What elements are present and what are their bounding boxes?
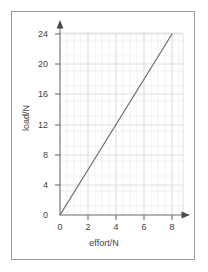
ytick-label-0: 0 (24, 210, 48, 220)
ytick-label-24: 24 (24, 29, 48, 39)
grid-minor-vertical (67, 33, 179, 215)
y-axis-title: load/N (21, 88, 31, 148)
grid-major-horizontal (60, 34, 183, 185)
grid-minor-horizontal (60, 41, 183, 206)
xtick-label-2: 2 (85, 222, 90, 232)
xtick-label-0: 0 (57, 222, 62, 232)
y-axis-arrowhead (57, 20, 64, 29)
x-tick-marks (88, 215, 172, 220)
plot-area-boundary (60, 33, 183, 215)
ytick-label-20: 20 (24, 59, 48, 69)
xtick-label-6: 6 (141, 222, 146, 232)
xtick-label-8: 8 (169, 222, 174, 232)
chart-figure: 24 20 16 12 8 4 0 0 2 4 6 8 effort/N loa… (0, 0, 208, 272)
xtick-label-4: 4 (113, 222, 118, 232)
y-tick-marks (55, 34, 60, 185)
x-axis-arrowhead (182, 212, 191, 219)
plot-canvas (0, 0, 208, 272)
ytick-label-8: 8 (24, 150, 48, 160)
ytick-label-4: 4 (24, 180, 48, 190)
x-axis-title: effort/N (0, 238, 208, 248)
